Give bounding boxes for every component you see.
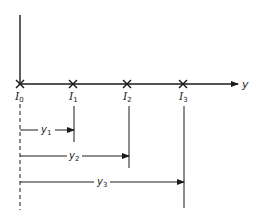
distance-arrow-y3: y3: [20, 176, 184, 189]
distance-arrow-y2: y2: [20, 150, 129, 163]
point-label-i2: I2: [122, 90, 132, 104]
axis-label-y: y: [241, 78, 249, 91]
point-label-i0: I0: [14, 90, 24, 104]
image-distance-diagram: y I0 I1 I2 I3 y1 y2 y3: [0, 0, 260, 218]
point-label-i1: I1: [68, 90, 78, 104]
distance-arrow-y1: y1: [20, 124, 74, 137]
point-label-i3: I3: [178, 90, 188, 104]
svg-text:y3: y3: [96, 176, 107, 189]
svg-text:y1: y1: [40, 124, 51, 137]
svg-text:y2: y2: [68, 150, 79, 163]
